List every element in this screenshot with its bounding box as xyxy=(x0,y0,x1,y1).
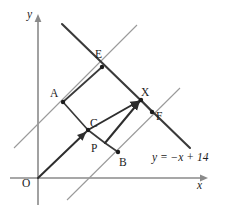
vector-O-to-C xyxy=(38,132,86,178)
vector-P-to-X xyxy=(105,102,140,144)
point-label-X: X xyxy=(141,86,150,98)
point-label-P: P xyxy=(91,142,97,154)
segment-P-B xyxy=(105,143,118,152)
point-marker-A xyxy=(61,100,65,104)
point-label-B: B xyxy=(119,156,127,168)
point-label-F: F xyxy=(156,110,162,122)
segment-A-E xyxy=(63,67,102,102)
point-marker-X xyxy=(139,98,143,102)
y-axis-arrowhead xyxy=(35,14,42,22)
point-marker-B xyxy=(116,150,120,154)
origin-label: O xyxy=(22,177,30,189)
point-label-C: C xyxy=(90,117,98,129)
point-label-A: A xyxy=(50,87,59,99)
thin-line-through-B-and-F xyxy=(67,88,180,200)
segment-A-C xyxy=(63,102,88,130)
segment-X-F xyxy=(141,100,152,112)
line-equation-label: y = −x + 14 xyxy=(151,151,209,164)
rhombus-segments-group xyxy=(63,67,118,152)
y-axis-label: y xyxy=(26,8,33,21)
thin-line-through-A-and-E xyxy=(14,25,137,148)
geometry-figure: y x O A E C P B X F y = −x + 14 xyxy=(0,0,242,215)
point-marker-E xyxy=(100,65,104,69)
point-marker-F xyxy=(150,110,154,114)
point-label-E: E xyxy=(95,48,102,60)
x-axis-label: x xyxy=(196,179,203,191)
